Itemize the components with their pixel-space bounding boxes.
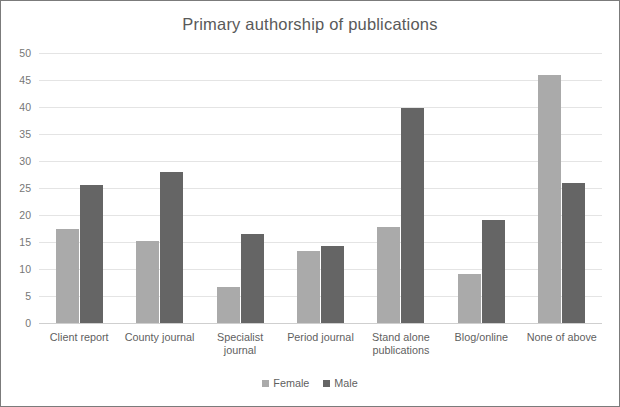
y-axis-tick-label: 10	[19, 263, 31, 275]
y-axis-tick-label: 50	[19, 47, 31, 59]
x-axis-category-label: Period journal	[280, 327, 360, 373]
bar-groups	[39, 53, 602, 323]
y-axis-tick-label: 20	[19, 209, 31, 221]
bar-female[interactable]	[56, 229, 79, 323]
bar-male[interactable]	[80, 185, 103, 323]
bar-male[interactable]	[401, 108, 424, 323]
bar-group	[522, 53, 602, 323]
y-axis-tick-label: 25	[19, 182, 31, 194]
bar-group	[280, 53, 360, 323]
y-axis: 50454035302520151050	[7, 53, 35, 323]
y-axis-tick-label: 0	[25, 317, 31, 329]
bar-male[interactable]	[241, 234, 264, 323]
x-axis-category-label: Stand alonepublications	[361, 327, 441, 373]
y-axis-tick-label: 40	[19, 101, 31, 113]
legend-swatch-icon	[323, 380, 330, 387]
bar-group	[200, 53, 280, 323]
y-axis-tick-label: 5	[25, 290, 31, 302]
legend-swatch-icon	[262, 380, 269, 387]
bar-male[interactable]	[160, 172, 183, 323]
bar-male[interactable]	[482, 220, 505, 323]
bar-female[interactable]	[458, 274, 481, 323]
x-axis-category-label: County journal	[119, 327, 199, 373]
bar-male[interactable]	[321, 246, 344, 323]
bar-female[interactable]	[136, 241, 159, 323]
bar-female[interactable]	[538, 75, 561, 323]
x-axis: Client reportCounty journalSpecialist jo…	[39, 327, 602, 373]
x-axis-category-label: Specialist journal	[200, 327, 280, 373]
bar-group	[441, 53, 521, 323]
y-axis-tick-label: 35	[19, 128, 31, 140]
chart-container: Primary authorship of publications 50454…	[0, 0, 620, 407]
y-axis-tick-label: 30	[19, 155, 31, 167]
y-axis-tick-label: 45	[19, 74, 31, 86]
chart-title: Primary authorship of publications	[7, 15, 613, 34]
x-axis-category-label: Blog/online	[441, 327, 521, 373]
legend-label: Male	[334, 377, 357, 389]
legend-item-female[interactable]: Female	[262, 377, 309, 389]
chart-plot-surface: Primary authorship of publications 50454…	[7, 7, 613, 400]
bar-male[interactable]	[562, 183, 585, 323]
bar-group	[39, 53, 119, 323]
legend-item-male[interactable]: Male	[323, 377, 357, 389]
y-axis-tick-label: 15	[19, 236, 31, 248]
bar-group	[119, 53, 199, 323]
x-axis-category-label: Client report	[39, 327, 119, 373]
legend-label: Female	[273, 377, 309, 389]
bar-group	[361, 53, 441, 323]
x-axis-category-label: None of above	[522, 327, 602, 373]
bar-female[interactable]	[377, 227, 400, 323]
bar-female[interactable]	[297, 251, 320, 323]
gridline-0	[39, 323, 602, 324]
bar-female[interactable]	[217, 287, 240, 323]
chart-legend: FemaleMale	[7, 377, 613, 389]
